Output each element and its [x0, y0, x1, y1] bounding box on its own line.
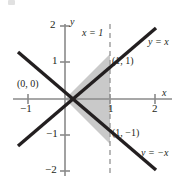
x-tick-label-neg1: −1 [20, 103, 32, 114]
point-label-upper: (1, 1) [112, 56, 134, 66]
x-tick-label-2: 2 [152, 103, 158, 114]
y-tick-label-neg2: −2 [45, 164, 57, 175]
y-tick-label-neg1: −1 [46, 128, 58, 139]
line-y-equals-neg-x [18, 52, 156, 170]
x-axis-label: x [162, 88, 166, 98]
y-tick-label-1: 1 [52, 55, 58, 66]
y-axis-label: y [70, 17, 74, 27]
point-label-origin: (0, 0) [17, 79, 39, 89]
point-label-lower: (1, −1) [112, 128, 139, 138]
line-upper-label: y = x [148, 37, 169, 47]
math-figure: y x 2 1 −1 −2 −1 1 2 x = 1 y = x y = −x … [0, 0, 192, 182]
y-tick-label-2: 2 [50, 19, 56, 30]
vertical-line-label: x = 1 [82, 28, 103, 38]
x-tick-label-1: 1 [108, 103, 114, 114]
line-lower-label: y = −x [141, 148, 168, 158]
